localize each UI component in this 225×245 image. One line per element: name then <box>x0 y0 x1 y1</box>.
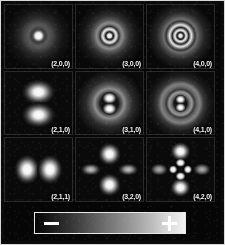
orbital-figure-plate: (2,0,0) <box>0 0 225 245</box>
orbital-panel-label: (3,2,0) <box>122 192 141 201</box>
orbital-panel-label: (2,1,1) <box>51 192 70 201</box>
orbital-panel[interactable]: (3,0,0) <box>75 4 144 69</box>
orbital-panel[interactable]: (4,0,0) <box>146 4 215 69</box>
orbital-panel-label: (3,0,0) <box>122 59 141 68</box>
orbital-panel-label: (2,1,0) <box>51 125 70 134</box>
orbital-panel-label: (3,1,0) <box>122 125 141 134</box>
colorbar-region <box>4 207 215 238</box>
orbital-panel[interactable]: (4,1,0) <box>146 71 215 136</box>
orbital-panel-label: (4,2,0) <box>193 192 212 201</box>
orbital-panel-label: (2,0,0) <box>51 59 70 68</box>
orbital-panel[interactable]: (3,1,0) <box>75 71 144 136</box>
orbital-panel[interactable]: (2,0,0) <box>4 4 73 69</box>
orbital-panel-label: (4,0,0) <box>193 59 212 68</box>
orbital-panel-grid: (2,0,0) <box>4 4 215 202</box>
colorbar-gradient[interactable] <box>34 212 186 234</box>
orbital-panel-label: (4,1,0) <box>193 125 212 134</box>
minus-sign-icon <box>44 222 59 225</box>
orbital-panel[interactable]: (2,1,0) <box>4 71 73 136</box>
orbital-panel[interactable]: (2,1,1) <box>4 137 73 202</box>
plus-sign-icon <box>162 216 177 231</box>
orbital-panel[interactable]: (4,2,0) <box>146 137 215 202</box>
orbital-panel[interactable]: (3,2,0) <box>75 137 144 202</box>
